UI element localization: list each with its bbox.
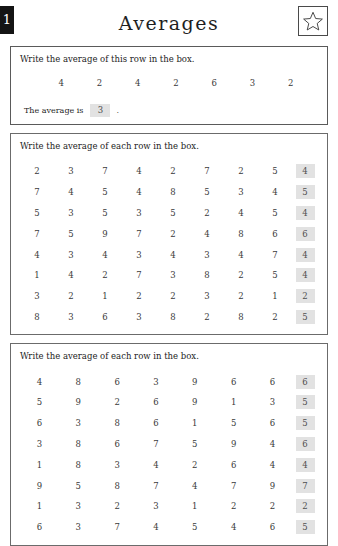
cell: 3 (122, 306, 156, 327)
cell: 6 (214, 371, 253, 392)
answer-box[interactable]: 4 (296, 458, 315, 472)
answer-cell[interactable]: 5 (292, 392, 318, 413)
cell: 5 (175, 517, 214, 538)
answer-cell[interactable]: 4 (292, 244, 318, 265)
cell: 3 (54, 306, 88, 327)
table-row: 3 8 6 7 5 9 4 6 (20, 434, 318, 455)
answer-box[interactable]: 5 (296, 395, 315, 409)
worksheet-page: 1 Averages Write the average of this row… (0, 6, 338, 467)
cell: 7 (190, 161, 224, 182)
example-number: 2 (272, 78, 310, 88)
table-row: 8 3 6 3 8 2 8 2 5 (20, 306, 318, 327)
answer-box[interactable]: 5 (296, 416, 315, 430)
cell: 5 (258, 203, 292, 224)
cell: 4 (214, 517, 253, 538)
cell: 1 (175, 413, 214, 434)
cell: 4 (122, 161, 156, 182)
cell: 6 (98, 371, 137, 392)
example-number: 2 (80, 78, 118, 88)
answer-box[interactable]: 2 (296, 289, 315, 303)
cell: 9 (175, 392, 214, 413)
cell: 5 (156, 203, 190, 224)
page-header: Averages (10, 6, 328, 46)
table-row: 1 8 3 4 2 6 4 4 (20, 454, 318, 475)
answer-box[interactable]: 6 (296, 437, 315, 451)
answer-cell[interactable]: 7 (292, 475, 318, 496)
exercise-1-instruction: Write the average of each row in the box… (20, 141, 318, 151)
answer-box[interactable]: 4 (296, 248, 315, 262)
table-row: 7 5 9 7 2 4 8 6 6 (20, 223, 318, 244)
answer-cell[interactable]: 4 (292, 265, 318, 286)
cell: 8 (224, 306, 258, 327)
cell: 4 (258, 182, 292, 203)
answer-cell[interactable]: 5 (292, 306, 318, 327)
cell: 2 (98, 392, 137, 413)
answer-box[interactable]: 4 (296, 206, 315, 220)
exercise-2-table: 4 8 6 3 9 6 6 6 5 9 2 6 9 1 3 5 (20, 371, 318, 537)
cell: 5 (88, 203, 122, 224)
answer-box[interactable]: 7 (296, 479, 315, 493)
cell: 3 (122, 244, 156, 265)
cell: 6 (258, 223, 292, 244)
example-answer-label: The average is (24, 106, 83, 115)
answer-cell[interactable]: 4 (292, 454, 318, 475)
cell: 4 (190, 223, 224, 244)
answer-cell[interactable]: 6 (292, 371, 318, 392)
cell: 1 (258, 286, 292, 307)
answer-cell[interactable]: 6 (292, 434, 318, 455)
answer-box[interactable]: 6 (296, 227, 315, 241)
table-row: 3 2 1 2 2 3 2 1 2 (20, 286, 318, 307)
cell: 6 (98, 434, 137, 455)
cell: 7 (122, 265, 156, 286)
answer-cell[interactable]: 5 (292, 517, 318, 538)
example-number: 2 (157, 78, 195, 88)
answer-cell[interactable]: 5 (292, 413, 318, 434)
cell: 1 (20, 454, 59, 475)
table-row: 9 5 8 7 4 7 9 7 (20, 475, 318, 496)
cell: 8 (156, 306, 190, 327)
answer-box[interactable]: 5 (296, 520, 315, 534)
cell: 3 (54, 244, 88, 265)
cell: 5 (258, 161, 292, 182)
cell: 9 (20, 475, 59, 496)
example-answer-box[interactable]: 3 (90, 104, 110, 117)
answer-box[interactable]: 5 (296, 310, 315, 324)
cell: 4 (137, 454, 176, 475)
cell: 4 (137, 517, 176, 538)
cell: 1 (88, 286, 122, 307)
answer-cell[interactable]: 2 (292, 286, 318, 307)
cell: 8 (98, 413, 137, 434)
cell: 3 (20, 434, 59, 455)
answer-cell[interactable]: 2 (292, 496, 318, 517)
answer-box[interactable]: 5 (296, 185, 315, 199)
answer-cell[interactable]: 4 (292, 203, 318, 224)
table-row: 6 3 7 4 5 4 6 5 (20, 517, 318, 538)
answer-box[interactable]: 4 (296, 164, 315, 178)
answer-cell[interactable]: 4 (292, 161, 318, 182)
cell: 4 (122, 182, 156, 203)
cell: 4 (54, 182, 88, 203)
answer-box[interactable]: 6 (296, 375, 315, 389)
answer-cell[interactable]: 6 (292, 223, 318, 244)
cell: 3 (137, 371, 176, 392)
cell: 4 (253, 454, 292, 475)
cell: 3 (190, 286, 224, 307)
cell: 6 (214, 454, 253, 475)
exercise-2-instruction: Write the average of each row in the box… (20, 351, 318, 361)
star-icon (299, 10, 327, 32)
table-row: 1 4 2 7 3 8 2 5 4 (20, 265, 318, 286)
answer-box[interactable]: 4 (296, 268, 315, 282)
cell: 2 (214, 496, 253, 517)
cell: 7 (258, 244, 292, 265)
cell: 2 (224, 286, 258, 307)
cell: 7 (214, 475, 253, 496)
exercise-1-table: 2 3 7 4 2 7 2 5 4 7 4 5 4 8 5 3 (20, 161, 318, 327)
answer-cell[interactable]: 5 (292, 182, 318, 203)
cell: 3 (98, 454, 137, 475)
answer-box[interactable]: 2 (296, 499, 315, 513)
cell: 3 (224, 182, 258, 203)
cell: 2 (20, 161, 54, 182)
star-sticker-box[interactable] (298, 6, 328, 36)
cell: 8 (156, 182, 190, 203)
cell: 3 (253, 392, 292, 413)
